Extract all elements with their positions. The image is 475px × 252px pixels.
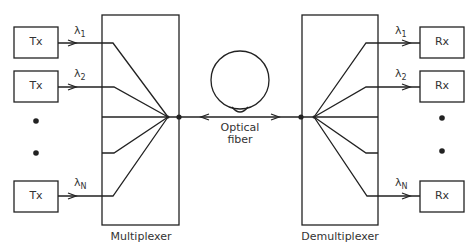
optical-fiber-label: Optical fiber <box>205 122 275 146</box>
multiplexer-label: Multiplexer <box>95 230 187 243</box>
tx-label-n: Tx <box>14 189 58 202</box>
wavelength-label-rx2: λ2 <box>395 67 407 82</box>
mux-line-4 <box>102 117 168 153</box>
rx2-line <box>314 87 420 117</box>
ellipsis-dot <box>439 115 445 121</box>
wavelength-label-tx2: λ2 <box>74 67 86 82</box>
wavelength-label-tx1: λ1 <box>74 24 86 39</box>
demux-line-4 <box>314 117 378 153</box>
fiber-loop <box>211 51 269 109</box>
demultiplexer-box <box>302 15 378 225</box>
rx-label-1: Rx <box>420 35 464 48</box>
rx-label-2: Rx <box>420 79 464 92</box>
tx2-line <box>58 87 168 117</box>
rx-label-n: Rx <box>420 189 464 202</box>
tx-label-2: Tx <box>14 79 58 92</box>
wavelength-label-txn: λN <box>74 176 87 191</box>
tx-label-1: Tx <box>14 35 58 48</box>
demultiplexer-label: Demultiplexer <box>290 230 390 243</box>
multiplexer-box <box>102 15 179 225</box>
ellipsis-dot <box>33 118 39 124</box>
ellipsis-dot <box>439 148 445 154</box>
mux-junction-dot <box>176 114 181 119</box>
ellipsis-dot <box>33 150 39 156</box>
wavelength-label-rxn: λN <box>395 176 408 191</box>
wavelength-label-rx1: λ1 <box>395 24 407 39</box>
demux-junction-dot <box>298 114 303 119</box>
